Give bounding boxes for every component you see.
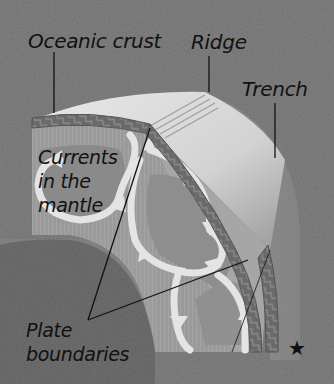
label-trench: Trench [242, 78, 308, 100]
label-ridge: Ridge [191, 31, 247, 53]
label-currents-in-mantle: Currents in the mantle [38, 145, 118, 217]
label-oceanic-crust: Oceanic crust [28, 30, 161, 52]
label-plate-boundaries: Plate boundaries [26, 318, 129, 366]
star-marker-icon: ★ [288, 337, 306, 359]
plate-tectonics-diagram: Oceanic crust Ridge Trench Currents in t… [0, 0, 334, 384]
